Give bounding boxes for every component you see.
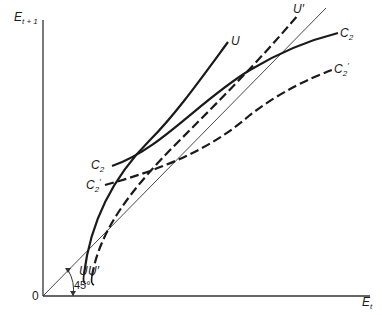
label-U-prime-top: U′ [293,3,304,15]
angle-arrow-bottom [70,291,76,296]
angle-label: 45° [74,280,91,291]
curve-U [84,42,228,274]
label-U-prime-bottom: U′ [88,265,99,277]
label-C2-prime-left: C2′ [86,178,101,194]
curve-C2 [112,33,338,166]
label-C2-left: C2 [91,159,104,174]
y-axis-label: Et + 1 [14,11,38,26]
label-C2-prime-right: C2′ [334,62,349,78]
label-U-top: U [231,35,240,47]
diagram-canvas [0,0,382,315]
curve-C2-prime [105,70,332,185]
x-axis-label: Et [362,296,372,311]
label-U-bottom: U [79,265,88,277]
label-C2-right: C2 [340,27,353,42]
origin-label: 0 [32,290,39,302]
curve-U-prime [92,15,298,276]
